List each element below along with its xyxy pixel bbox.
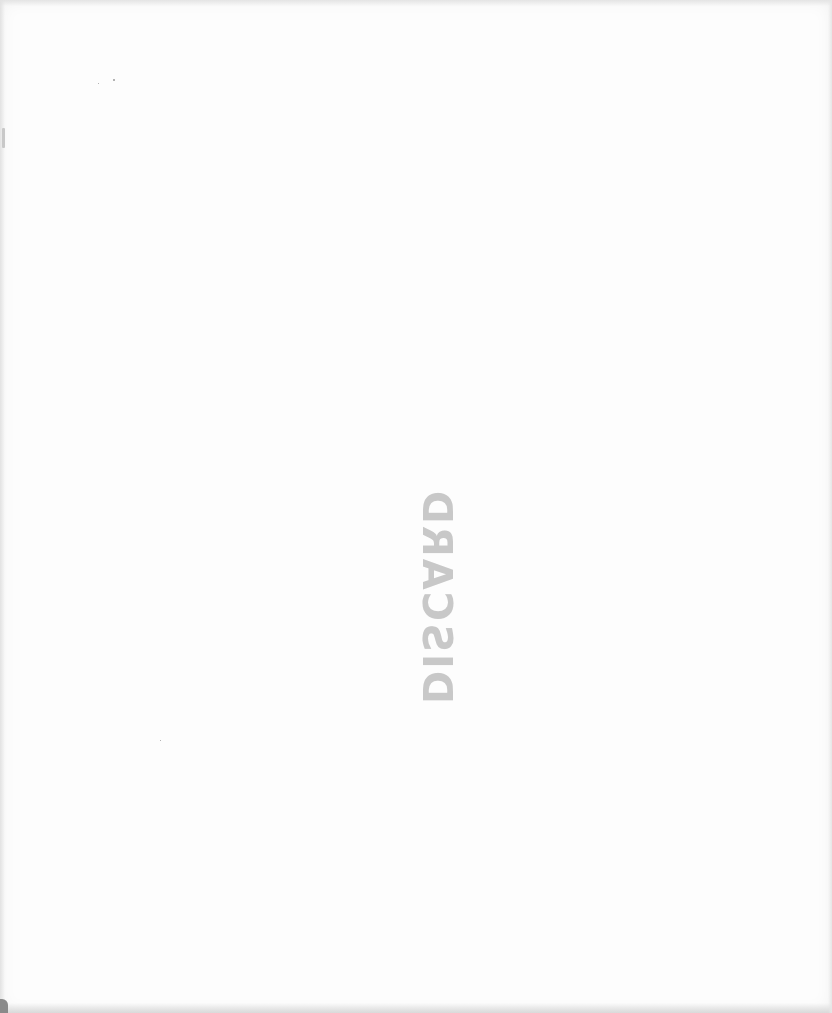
scan-corner-mark	[0, 999, 8, 1013]
page-left-edge	[0, 0, 5, 1013]
dust-speck	[113, 79, 115, 81]
dust-speck	[2, 128, 5, 148]
page-right-edge	[828, 0, 832, 1013]
page-top-edge	[0, 0, 832, 6]
discard-stamp: DISCARD	[413, 564, 461, 704]
scanned-page: DISCARD	[0, 0, 832, 1013]
dust-speck	[98, 83, 99, 84]
dust-speck	[160, 740, 161, 741]
page-bottom-edge	[0, 1003, 832, 1013]
